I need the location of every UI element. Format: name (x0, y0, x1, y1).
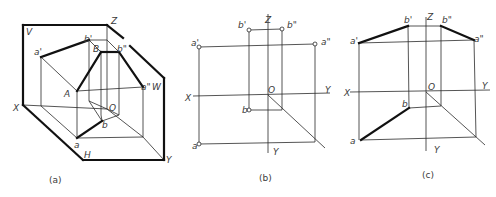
projection-line (409, 106, 441, 108)
point-label: b' (84, 34, 92, 44)
projection-line (41, 106, 77, 138)
projection-point-marker (280, 27, 284, 31)
projection-line (23, 105, 107, 109)
projection-line (77, 87, 143, 91)
panel-caption: (b) (259, 173, 272, 183)
panel-c-projection-with-line: Zb'b"a'a"XOYbaY(c) (343, 12, 490, 180)
panel-a-axonometric-view: VZb'Bb"a'a"WAXObaHY(a) (12, 16, 173, 185)
outline-line (23, 105, 83, 160)
projection-line (359, 40, 474, 43)
point-label: b (402, 99, 408, 109)
point-label: X (12, 103, 20, 113)
projection-line (193, 93, 330, 96)
projection-line (199, 44, 315, 47)
projection-line (41, 57, 77, 91)
projection-line (426, 92, 485, 145)
projection-line (268, 95, 325, 148)
point-label: b' (238, 20, 246, 30)
point-label: Y (482, 81, 489, 91)
point-label: b" (117, 44, 127, 54)
outline-line (441, 26, 474, 40)
point-label: b (102, 120, 108, 130)
point-label: a' (34, 47, 42, 57)
projection-figure: VZb'Bb"a'a"WAXObaHY(a) Zb'b"a'a"XOYbaY(b… (0, 0, 496, 197)
point-label: X (343, 88, 351, 98)
projection-line (474, 40, 476, 137)
point-label: X (184, 93, 192, 103)
projection-point-marker (197, 142, 201, 146)
projection-line (77, 137, 143, 138)
point-label: Y (434, 145, 441, 155)
projection-point-marker (313, 42, 317, 46)
projection-line (361, 137, 476, 140)
outline-line (130, 46, 164, 78)
outline-line (41, 40, 89, 57)
point-label: Z (426, 12, 434, 22)
projection-line (143, 137, 164, 160)
projection-line (199, 142, 315, 144)
point-label: a" (141, 82, 151, 92)
point-label: Z (110, 16, 118, 26)
point-label: V (26, 27, 33, 37)
point-label: a (74, 140, 80, 150)
point-label: a (350, 136, 356, 146)
projection-line (350, 90, 490, 92)
point-label: Y (273, 147, 280, 157)
point-label: Y (166, 155, 173, 165)
point-label: a' (191, 38, 199, 48)
point-label: B (93, 44, 99, 54)
point-label: O (109, 103, 116, 113)
point-label: b (242, 105, 248, 115)
point-label: b" (287, 20, 297, 30)
outline-line (361, 108, 409, 140)
point-label: a" (474, 34, 484, 44)
point-label: W (152, 82, 162, 92)
outline-line (119, 52, 143, 87)
panel-b-three-view-projection: Zb'b"a'a"XOYbaY(b) (184, 14, 332, 183)
point-label: O (428, 82, 435, 92)
outline-line (359, 26, 408, 43)
panel-caption: (a) (49, 175, 62, 185)
projection-point-marker (247, 28, 251, 32)
point-label: a (192, 141, 198, 151)
point-label: Y (325, 85, 332, 95)
panel-caption: (c) (422, 170, 434, 180)
projection-line (408, 26, 409, 108)
projection-line (249, 29, 282, 30)
point-label: a' (350, 36, 358, 46)
point-label: Z (264, 15, 272, 25)
point-label: O (268, 85, 275, 95)
point-label: a" (321, 37, 331, 47)
outline-line (107, 25, 123, 38)
point-label: b' (404, 15, 412, 25)
point-label: b" (442, 15, 452, 25)
point-label: H (84, 150, 91, 160)
point-label: A (63, 89, 70, 99)
outline-line (77, 121, 102, 138)
projection-line (107, 109, 143, 137)
